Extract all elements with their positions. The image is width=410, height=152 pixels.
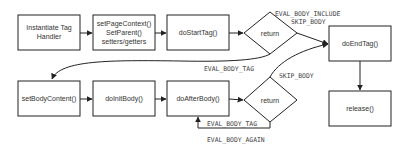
decision-label: return xyxy=(261,30,279,37)
node-do-after-body: doAfterBody() xyxy=(167,81,229,116)
node-label: SetParent() xyxy=(106,29,142,37)
node-do-start-tag: doStartTag() xyxy=(167,15,229,50)
edge-label-eval-body-tag-loop: EVAL_BODY_TAG xyxy=(207,120,257,128)
edge-return-to-doendtag xyxy=(297,33,328,44)
edge-doafterbody-to-return xyxy=(229,99,243,100)
decision-label: return xyxy=(261,97,279,104)
edge-label-skip-body-top: SKIP_BODY xyxy=(291,18,326,26)
node-do-init-body: doInitBody() xyxy=(93,81,155,116)
node-label: setters/getters xyxy=(102,38,147,46)
node-label: Instantiate Tag xyxy=(26,24,72,32)
node-label: release() xyxy=(346,105,374,113)
node-set-page-context: setPageContext() SetParent() setters/get… xyxy=(93,15,155,50)
node-label: setBodyContent() xyxy=(22,95,76,103)
node-do-end-tag: doEndTag() xyxy=(329,26,391,61)
edge-label-eval-body-again: EVAL_BODY_AGAIN xyxy=(207,136,265,144)
node-set-body-content: setBodyContent() xyxy=(18,81,80,116)
tag-lifecycle-diagram: Instantiate Tag Handler setPageContext()… xyxy=(0,0,410,152)
decision-return-after: return xyxy=(244,77,297,122)
node-label: doAfterBody() xyxy=(176,95,219,103)
node-label: doStartTag() xyxy=(179,29,218,37)
node-label: doInitBody() xyxy=(105,95,143,103)
node-release: release() xyxy=(329,91,391,126)
node-label: setPageContext() xyxy=(97,20,151,28)
edge-label-eval-body-include: EVAL_BODY_INCLUDE xyxy=(275,10,341,18)
decision-return-start: return xyxy=(244,12,297,54)
edge-label-skip-body-bottom: SKIP_BODY xyxy=(279,72,314,80)
node-label: Handler xyxy=(37,33,62,40)
node-instantiate-tag-handler: Instantiate Tag Handler xyxy=(18,15,80,50)
node-label: doEndTag() xyxy=(342,40,378,48)
edge-label-eval-body-tag-top: EVAL_BODY_TAG xyxy=(204,65,254,73)
